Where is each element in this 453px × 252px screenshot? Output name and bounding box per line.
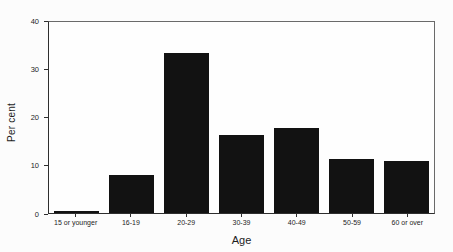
- bar-40-49: [274, 128, 320, 213]
- x-tick-label: 20-29: [177, 219, 195, 226]
- x-tick-label: 30-39: [233, 219, 251, 226]
- x-axis-ticks: 15 or younger16-1920-2930-3940-4950-5960…: [48, 214, 435, 226]
- bar-50-59: [329, 159, 375, 213]
- x-tick-mark: [130, 214, 131, 217]
- y-axis: 010203040: [0, 21, 48, 214]
- x-tick: 50-59: [324, 214, 379, 226]
- x-tick: 60 or over: [380, 214, 435, 226]
- bar-slot: [379, 22, 434, 213]
- bar-slot: [324, 22, 379, 213]
- bar-15 or younger: [54, 211, 100, 213]
- x-axis-title: Age: [48, 234, 435, 246]
- bar-30-39: [219, 135, 265, 213]
- x-tick-label: 50-59: [343, 219, 361, 226]
- x-tick: 16-19: [103, 214, 158, 226]
- bar-slot: [49, 22, 104, 213]
- bar-slot: [159, 22, 214, 213]
- bar-slot: [214, 22, 269, 213]
- y-tick-label: 0: [35, 210, 39, 218]
- x-tick-label: 16-19: [122, 219, 140, 226]
- plot-area: [48, 21, 435, 214]
- x-tick: 20-29: [159, 214, 214, 226]
- x-tick-mark: [407, 214, 408, 217]
- y-tick-label: 40: [31, 17, 39, 25]
- y-tick-label: 30: [31, 66, 39, 74]
- x-tick-mark: [186, 214, 187, 217]
- y-tick-label: 20: [31, 114, 39, 122]
- x-tick: 30-39: [214, 214, 269, 226]
- x-tick-mark: [241, 214, 242, 217]
- bar-slot: [104, 22, 159, 213]
- y-tick-label: 10: [31, 162, 39, 170]
- x-tick-label: 40-49: [288, 219, 306, 226]
- x-tick: 40-49: [269, 214, 324, 226]
- bar-16-19: [109, 175, 155, 213]
- x-tick-mark: [352, 214, 353, 217]
- x-tick-label: 15 or younger: [54, 219, 97, 226]
- bar-20-29: [164, 53, 210, 213]
- x-tick-label: 60 or over: [392, 219, 424, 226]
- x-tick: 15 or younger: [48, 214, 103, 226]
- x-tick-mark: [75, 214, 76, 217]
- bar-chart-figure: Per cent 010203040 15 or younger16-1920-…: [0, 0, 453, 252]
- x-tick-mark: [296, 214, 297, 217]
- bar-slot: [269, 22, 324, 213]
- bar-60 or over: [384, 161, 430, 213]
